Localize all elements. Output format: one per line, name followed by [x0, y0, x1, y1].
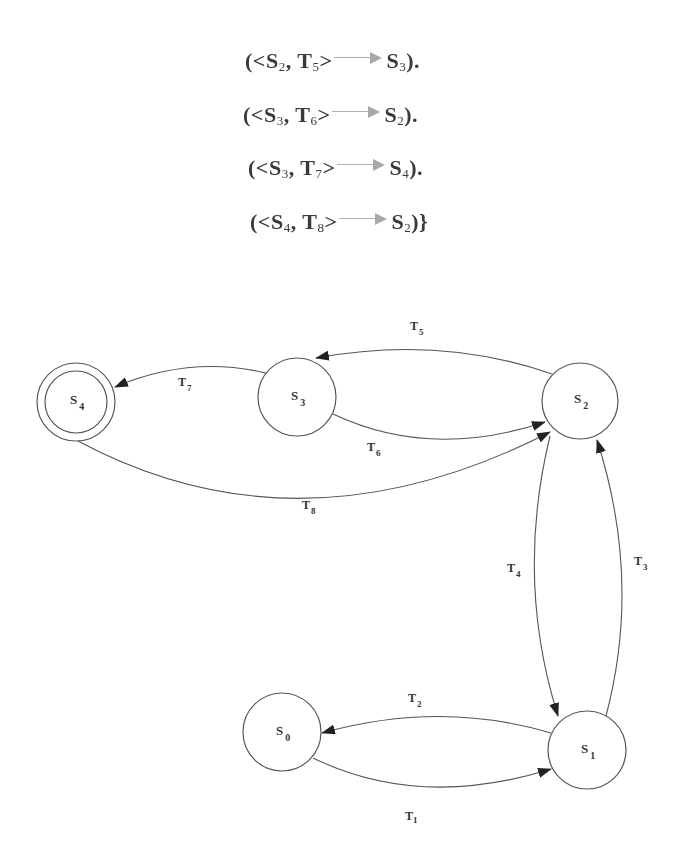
edge-t4	[534, 436, 558, 716]
edge-t7-label: T7	[178, 375, 192, 393]
edge-t1	[313, 758, 551, 787]
edge-t3	[597, 440, 622, 716]
edge-t6	[333, 414, 545, 439]
edge-t6-label: T6	[367, 440, 381, 458]
edge-t4-label: T4	[507, 561, 521, 579]
edge-t2-label: T2	[408, 691, 422, 709]
edge-t8-label: T8	[302, 498, 316, 516]
edge-t5-label: T5	[410, 319, 424, 337]
edge-t5	[316, 349, 552, 374]
edge-t3-label: T3	[634, 554, 648, 572]
state-diagram: S4 S3 S2 S0 S1 T5 T7 T6 T8 T4 T3 T2 T1	[0, 0, 677, 843]
edge-t8	[78, 432, 550, 498]
edge-t1-label: T1	[405, 809, 418, 825]
edge-t2	[322, 717, 551, 734]
